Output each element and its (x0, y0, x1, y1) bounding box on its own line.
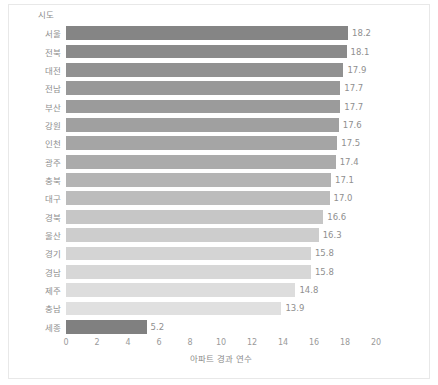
bar (66, 191, 330, 205)
category-label: 대전 (45, 64, 61, 76)
bar (66, 210, 323, 224)
value-label: 15.8 (315, 248, 334, 258)
bar (66, 247, 311, 261)
x-axis-title: 아파트 경과 연수 (66, 352, 376, 364)
value-label: 16.3 (323, 230, 342, 240)
category-label: 충남 (45, 302, 61, 314)
value-label: 18.2 (352, 28, 371, 38)
category-label: 제주 (45, 284, 61, 296)
category-label: 광주 (45, 156, 61, 168)
bar-row: 경기15.8 (66, 244, 376, 262)
x-axis-tick-label: 4 (125, 338, 130, 347)
value-label: 17.4 (340, 157, 359, 167)
bar-row: 전북18.1 (66, 42, 376, 60)
bar-row: 경북16.6 (66, 208, 376, 226)
bar-row: 충남13.9 (66, 299, 376, 317)
category-label: 전남 (45, 82, 61, 94)
bar-row: 대구17.0 (66, 189, 376, 207)
category-label: 인천 (45, 137, 61, 149)
x-axis-tick-label: 10 (216, 338, 226, 347)
bar (66, 136, 337, 150)
bar (66, 228, 319, 242)
chart-figure: 시도 서울18.2전북18.1대전17.9전남17.7부산17.7강원17.6인… (0, 0, 438, 385)
bar-row: 세종5.2 (66, 318, 376, 336)
x-axis-tick-label: 18 (340, 338, 350, 347)
value-label: 17.5 (341, 138, 360, 148)
bar (66, 100, 340, 114)
value-label: 17.6 (343, 120, 362, 130)
value-label: 17.9 (347, 65, 366, 75)
value-label: 17.7 (344, 83, 363, 93)
category-label: 세종 (45, 321, 61, 333)
category-label: 경남 (45, 266, 61, 278)
bar (66, 63, 343, 77)
bar (66, 265, 311, 279)
bar-row: 광주17.4 (66, 152, 376, 170)
bar (66, 155, 336, 169)
value-label: 13.9 (285, 303, 304, 313)
bar (66, 283, 295, 297)
x-axis-tick-label: 14 (278, 338, 288, 347)
y-axis-title: 시도 (38, 8, 54, 20)
bar (66, 320, 147, 334)
category-label: 경북 (45, 211, 61, 223)
bar-row: 대전17.9 (66, 61, 376, 79)
value-label: 15.8 (315, 267, 334, 277)
value-label: 14.8 (299, 285, 318, 295)
bar (66, 26, 348, 40)
category-label: 강원 (45, 119, 61, 131)
bar-row: 인천17.5 (66, 134, 376, 152)
bar-row: 울산16.3 (66, 226, 376, 244)
x-axis-tick-label: 6 (156, 338, 161, 347)
value-label: 17.0 (334, 193, 353, 203)
x-axis-tick-label: 8 (187, 338, 192, 347)
category-label: 부산 (45, 101, 61, 113)
value-label: 17.7 (344, 102, 363, 112)
bar-row: 충북17.1 (66, 171, 376, 189)
category-label: 대구 (45, 192, 61, 204)
bar (66, 302, 281, 316)
value-label: 5.2 (151, 322, 165, 332)
bar (66, 118, 339, 132)
x-axis-tick-label: 20 (371, 338, 381, 347)
bar (66, 45, 347, 59)
category-label: 충북 (45, 174, 61, 186)
bar-row: 전남17.7 (66, 79, 376, 97)
category-label: 울산 (45, 229, 61, 241)
category-label: 서울 (45, 27, 61, 39)
x-axis-tick-row: 02468101214161820 (66, 338, 376, 350)
bar-row: 제주14.8 (66, 281, 376, 299)
bar-row: 서울18.2 (66, 24, 376, 42)
x-axis-tick-label: 12 (247, 338, 257, 347)
category-label: 경기 (45, 247, 61, 259)
bar (66, 173, 331, 187)
value-label: 18.1 (351, 47, 370, 57)
bar (66, 81, 340, 95)
bar-row: 강원17.6 (66, 116, 376, 134)
x-axis-tick-label: 2 (94, 338, 99, 347)
value-label: 16.6 (327, 212, 346, 222)
bar-row: 경남15.8 (66, 263, 376, 281)
x-axis-tick-label: 16 (309, 338, 319, 347)
x-axis-tick-label: 0 (63, 338, 68, 347)
value-label: 17.1 (335, 175, 354, 185)
plot-area: 서울18.2전북18.1대전17.9전남17.7부산17.7강원17.6인천17… (66, 24, 376, 336)
bar-row: 부산17.7 (66, 97, 376, 115)
category-label: 전북 (45, 46, 61, 58)
